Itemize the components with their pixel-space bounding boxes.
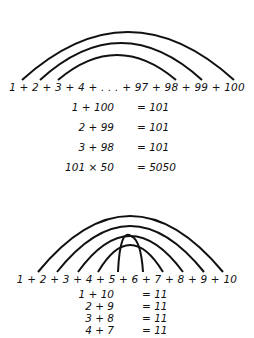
equation-lhs: 2 + 9 xyxy=(85,300,114,312)
arc-3-98 xyxy=(58,55,176,80)
equation-lhs: 2 + 99 xyxy=(78,121,114,133)
equation-rhs: = 5050 xyxy=(137,161,176,173)
arc-3-8 xyxy=(78,236,183,272)
equation-lhs: 3 + 8 xyxy=(85,312,114,324)
equation-rhs: = 101 xyxy=(137,121,169,133)
arc-diagram xyxy=(0,0,254,338)
arc-1-10 xyxy=(38,216,223,272)
arc-4-7 xyxy=(98,245,163,272)
equation-rhs: = 101 xyxy=(137,101,169,113)
equation-lhs: 4 + 7 xyxy=(85,324,114,336)
equation-lhs: 101 × 50 xyxy=(65,161,114,173)
equation-rhs: = 11 xyxy=(142,300,168,312)
equation-lhs: 1 + 10 xyxy=(78,288,114,300)
sequence-1-to-100: 1 + 2 + 3 + 4 + . . . + 97 + 98 + 99 + 1… xyxy=(0,81,254,93)
equation-rhs: = 11 xyxy=(142,288,168,300)
arc-5-6 xyxy=(118,235,143,272)
equation-lhs: 3 + 98 xyxy=(78,141,114,153)
equation-rhs: = 101 xyxy=(137,141,169,153)
equation-rhs: = 11 xyxy=(142,312,168,324)
sequence-1-to-10: 1 + 2 + 3 + 4 + 5 + 6 + 7 + 8 + 9 + 10 xyxy=(0,273,254,285)
equation-rhs: = 11 xyxy=(142,324,168,336)
equation-lhs: 1 + 100 xyxy=(72,101,114,113)
